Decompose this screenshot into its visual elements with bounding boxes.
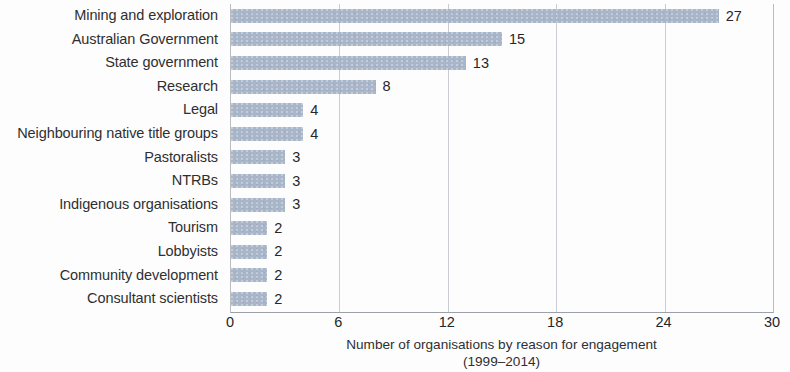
bar-value-label: 2 <box>274 244 282 259</box>
x-tick-label: 18 <box>547 314 563 330</box>
bar-row: 2 <box>231 264 773 288</box>
x-tick-label: 12 <box>439 314 455 330</box>
bar <box>231 127 303 141</box>
bar-value-label: 2 <box>274 292 282 307</box>
bar-row: 4 <box>231 98 773 122</box>
bar-value-label: 8 <box>383 79 391 94</box>
bar-value-label: 3 <box>292 197 300 212</box>
x-axis-title-line-2: (1999–2014) <box>230 353 773 370</box>
bar <box>231 174 285 188</box>
bar-row: 15 <box>231 28 773 52</box>
bar-value-label: 3 <box>292 150 300 165</box>
figure: Mining and explorationAustralian Governm… <box>0 0 790 372</box>
bar-chart: Mining and explorationAustralian Governm… <box>0 0 790 316</box>
bar-row: 27 <box>231 4 773 28</box>
bar-row: 3 <box>231 146 773 170</box>
bar-row: 8 <box>231 75 773 99</box>
category-label: Australian Government <box>0 28 224 52</box>
bar-value-label: 2 <box>274 268 282 283</box>
bar-row: 13 <box>231 51 773 75</box>
x-tick-label: 24 <box>656 314 672 330</box>
category-label: Indigenous organisations <box>0 193 224 217</box>
bar <box>231 198 285 212</box>
bar <box>231 103 303 117</box>
category-label: Community development <box>0 264 224 288</box>
bar-value-label: 27 <box>726 9 742 24</box>
bar-row: 2 <box>231 216 773 240</box>
plot-area: 2715138443332222 <box>230 4 774 313</box>
bar <box>231 245 267 259</box>
x-tick-label: 0 <box>226 314 234 330</box>
category-label: Tourism <box>0 216 224 240</box>
bar-row: 3 <box>231 193 773 217</box>
bar-value-label: 2 <box>274 221 282 236</box>
category-label: Legal <box>0 98 224 122</box>
bar <box>231 292 267 306</box>
category-label: Mining and exploration <box>0 4 224 28</box>
category-label: Neighbouring native title groups <box>0 122 224 146</box>
category-label: State government <box>0 51 224 75</box>
bar <box>231 268 267 282</box>
bar <box>231 221 267 235</box>
bar-value-label: 15 <box>509 32 525 47</box>
category-axis-labels: Mining and explorationAustralian Governm… <box>0 4 224 312</box>
bar-row: 2 <box>231 240 773 264</box>
x-axis-title: Number of organisations by reason for en… <box>230 336 773 370</box>
category-label: NTRBs <box>0 169 224 193</box>
bar-value-label: 13 <box>473 56 489 71</box>
bar <box>231 56 466 70</box>
bar-value-label: 4 <box>310 127 318 142</box>
category-label: Consultant scientists <box>0 287 224 311</box>
x-tick-label: 30 <box>764 314 780 330</box>
x-axis-title-line-1: Number of organisations by reason for en… <box>346 337 657 352</box>
bar-row: 4 <box>231 122 773 146</box>
category-label: Research <box>0 75 224 99</box>
bar <box>231 150 285 164</box>
bar <box>231 9 719 23</box>
x-tick-label: 6 <box>334 314 342 330</box>
bar-value-label: 3 <box>292 174 300 189</box>
bar <box>231 32 502 46</box>
bar <box>231 80 376 94</box>
bar-row: 3 <box>231 169 773 193</box>
bar-row: 2 <box>231 287 773 311</box>
bar-series: 2715138443332222 <box>231 4 773 312</box>
category-label: Pastoralists <box>0 146 224 170</box>
category-label: Lobbyists <box>0 240 224 264</box>
x-axis-tick-labels: 0612182430 <box>230 314 773 334</box>
bar-value-label: 4 <box>310 103 318 118</box>
